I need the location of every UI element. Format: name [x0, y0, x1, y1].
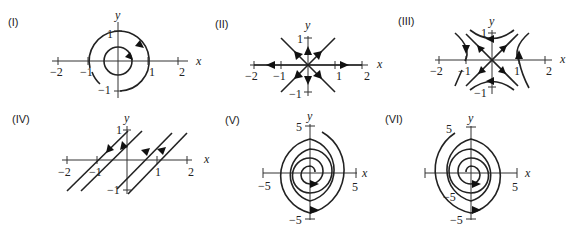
panel-label: (IV): [12, 113, 30, 125]
orbit-outer-segment: [92, 72, 100, 84]
x-tick-label: 2: [364, 69, 370, 83]
y-axis-label: y: [467, 111, 474, 125]
arrow-icons: [310, 180, 319, 214]
x-axis-label: x: [361, 166, 368, 180]
x-tick-label: 2: [188, 165, 194, 179]
x-tick-label: 1: [514, 64, 520, 78]
x-tick-label: 2: [179, 65, 185, 79]
x-tick-label: −2: [430, 64, 443, 78]
x-tick-label: 1: [336, 69, 342, 83]
x-axis-label: x: [559, 52, 566, 66]
x-axis-label: x: [195, 54, 202, 68]
x-axis-label: x: [376, 57, 383, 71]
panel-label: (VI): [385, 113, 403, 125]
y-tick-label: −1: [107, 183, 120, 197]
panel-label: (III): [398, 15, 415, 27]
x-tick-label: −2: [245, 69, 258, 83]
x-tick-label: −2: [50, 65, 63, 79]
y-axis-label: y: [488, 14, 495, 28]
y-tick-label: −1: [289, 87, 302, 101]
y-tick-label: −1: [98, 83, 111, 97]
panel-III: (III) −2 −1 1 2 1 −1 x y: [398, 14, 566, 100]
y-tick-label: −1: [474, 86, 487, 100]
x-tick-label: −5: [258, 179, 271, 193]
panel-II: (II) −2 −1 1 2 1 −1 x y: [215, 18, 383, 101]
x-tick-label: −1: [80, 65, 93, 79]
y-tick-label: 5: [446, 122, 452, 136]
y-tick-label: 5: [296, 120, 302, 134]
y-axis-label: y: [123, 111, 130, 125]
x-tick-label: 1: [149, 65, 155, 79]
panel-IV: (IV) −2 −1 1 2 1 −1 x y: [12, 111, 210, 197]
y-tick-label: 1: [297, 32, 303, 46]
x-axis-label: x: [524, 166, 531, 180]
x-tick-label: 2: [546, 64, 552, 78]
panel-label: (II): [215, 18, 228, 30]
x-axis-label: x: [203, 152, 210, 166]
y-axis-label: y: [306, 109, 313, 123]
panel-V: (V) −5 5 5 −5 x y: [225, 109, 368, 227]
panel-VI: (VI) 5 5 −5 −5 x y: [385, 111, 531, 227]
y-tick-label: −5: [289, 213, 302, 227]
x-tick-label: −1: [273, 69, 286, 83]
y-axis-label: y: [114, 8, 121, 22]
panel-label: (V): [225, 114, 240, 126]
phase-portraits-figure: (I) −2 −1 1 2 1 −1 x y (II): [0, 0, 580, 233]
panel-I: (I) −2 −1 1 2 1 −1 x y: [8, 8, 202, 98]
x-tick-label: 5: [512, 180, 518, 194]
y-axis-label: y: [304, 18, 311, 32]
x-tick-label: 5: [352, 180, 358, 194]
panel-label: (I): [8, 16, 18, 28]
y-tick-label: −5: [450, 213, 463, 227]
y-tick-label: 1: [116, 123, 122, 137]
x-tick-label: −2: [58, 165, 71, 179]
x-tick-label: 1: [155, 165, 161, 179]
